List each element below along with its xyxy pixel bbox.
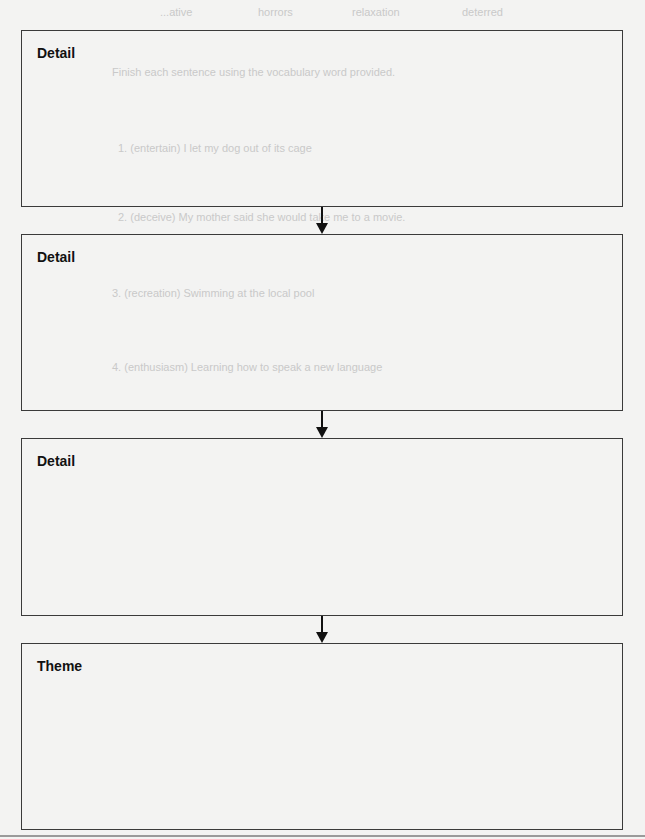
bleed-word-3: relaxation [352, 6, 400, 18]
detail-label-2: Detail [37, 249, 75, 265]
bleed-item-2: 2. (deceive) My mother said she would ta… [118, 211, 405, 223]
arrow-down-icon [316, 616, 328, 643]
bleed-word-2: horrors [258, 6, 293, 18]
page-edge-divider [0, 835, 645, 837]
bleed-word-4: deterred [462, 6, 503, 18]
detail-box-2: Detail [21, 234, 623, 411]
arrow-down-icon [316, 411, 328, 438]
arrow-down-icon [316, 207, 328, 234]
theme-label: Theme [37, 658, 82, 674]
detail-box-1: Detail [21, 30, 623, 207]
theme-box: Theme [21, 643, 623, 830]
detail-label-1: Detail [37, 45, 75, 61]
bleed-word-1: ...ative [160, 6, 192, 18]
detail-box-3: Detail [21, 438, 623, 616]
detail-label-3: Detail [37, 453, 75, 469]
